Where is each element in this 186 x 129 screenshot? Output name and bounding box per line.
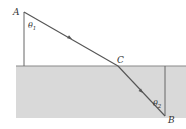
arrow-icon [67,35,72,39]
ray-a-c [24,12,118,66]
label-a: A [12,7,20,17]
lower-medium [16,66,186,118]
label-c: C [117,55,124,65]
label-b: B [167,115,175,125]
refraction-diagram: A C B θ1 θ2 [0,0,186,129]
label-theta1: θ1 [28,21,36,31]
